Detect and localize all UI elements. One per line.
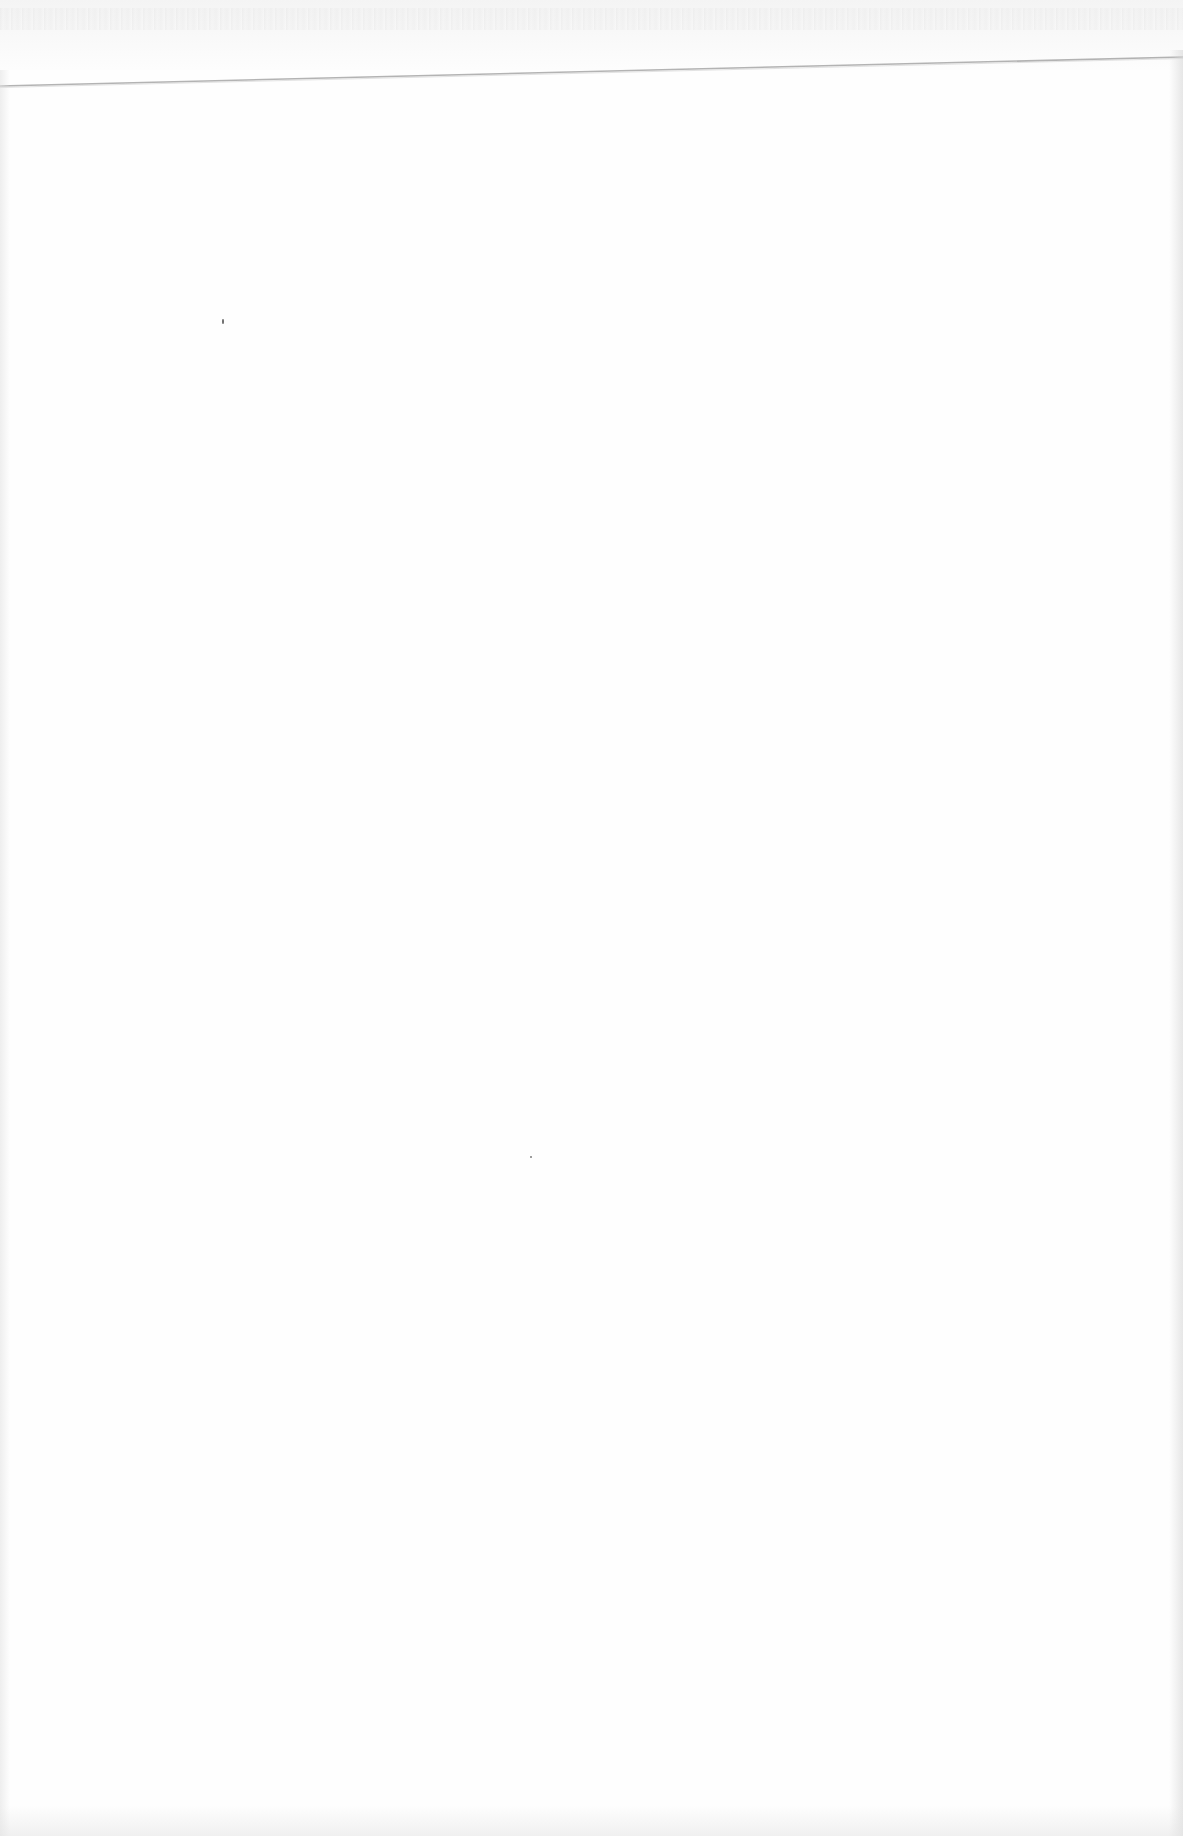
dust-speck: [222, 319, 224, 324]
blank-page: [0, 0, 1183, 1836]
scan-right-margin: [1169, 50, 1183, 1836]
page-edge-line: [0, 0, 1183, 100]
scan-bottom-band: [0, 1806, 1183, 1836]
scan-left-margin: [0, 70, 10, 1836]
dust-speck: [530, 1156, 532, 1158]
